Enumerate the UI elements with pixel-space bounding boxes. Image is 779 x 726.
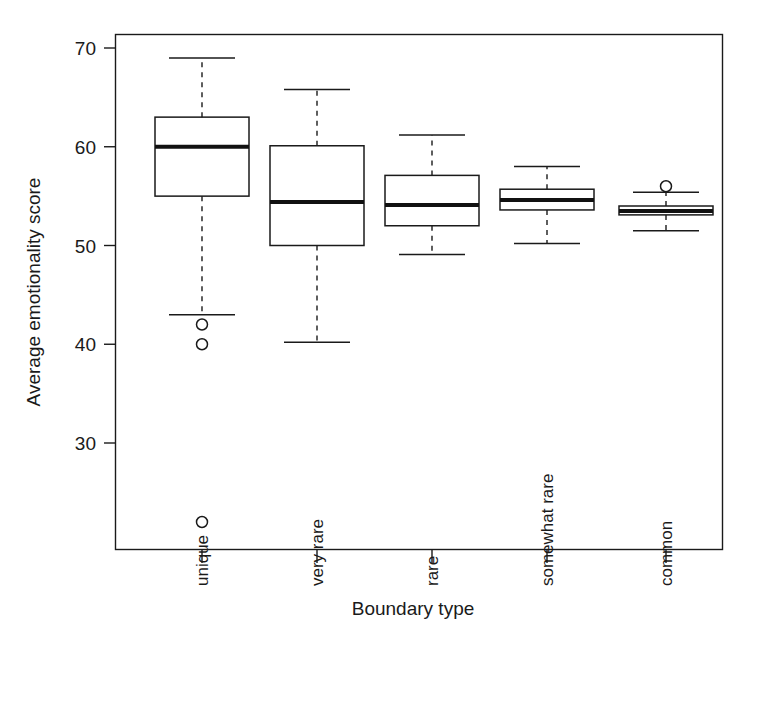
category-label-rare: rare xyxy=(423,556,442,586)
y-tick-label-60: 60 xyxy=(75,137,96,158)
category-label-common: common xyxy=(657,521,676,586)
y-axis-title: Average emotionality score xyxy=(23,178,44,407)
y-tick-label-40: 40 xyxy=(75,334,96,355)
y-tick-label-70: 70 xyxy=(75,38,96,59)
chart-canvas: 3040506070 uniquevery rareraresomewhat r… xyxy=(0,0,779,726)
y-tick-label-30: 30 xyxy=(75,433,96,454)
category-label-unique: unique xyxy=(193,535,212,586)
category-label-somewhat-rare: somewhat rare xyxy=(538,474,557,586)
boxplot-chart: 3040506070 uniquevery rareraresomewhat r… xyxy=(0,0,779,726)
category-label-very-rare: very rare xyxy=(308,519,327,586)
y-tick-label-50: 50 xyxy=(75,236,96,257)
x-axis-title: Boundary type xyxy=(352,598,475,619)
